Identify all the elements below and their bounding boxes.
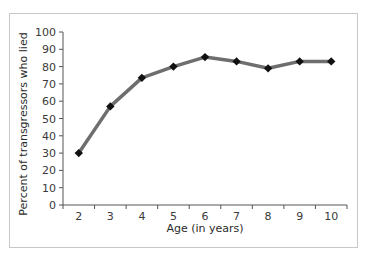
x-tick-label: 8 xyxy=(265,210,272,223)
diamond-marker xyxy=(169,62,177,70)
series-line xyxy=(79,57,331,153)
x-axis-title: Age (in years) xyxy=(166,222,243,235)
data-series xyxy=(75,53,336,157)
y-tick-label: 20 xyxy=(42,164,56,177)
line-chart: 0102030405060708090100 2345678910 Age (i… xyxy=(0,0,370,261)
y-tick-label: 50 xyxy=(42,113,56,126)
x-tick-label: 4 xyxy=(138,210,145,223)
y-tick-label: 90 xyxy=(42,43,56,56)
x-tick-label: 9 xyxy=(296,210,303,223)
y-tick-label: 40 xyxy=(42,130,56,143)
y-tick-label: 30 xyxy=(42,147,56,160)
y-axis-title: Percent of transgressors who lied xyxy=(17,32,30,215)
diamond-marker xyxy=(201,53,209,61)
y-tick-label: 100 xyxy=(35,26,56,39)
diamond-marker xyxy=(295,57,303,65)
diamond-marker xyxy=(232,57,240,65)
y-tick-label: 80 xyxy=(42,61,56,74)
y-tick-label: 70 xyxy=(42,78,56,91)
x-axis: 2345678910 xyxy=(63,205,347,223)
diamond-marker xyxy=(327,57,335,65)
y-tick-label: 0 xyxy=(49,199,56,212)
y-axis: 0102030405060708090100 xyxy=(35,26,63,212)
y-tick-label: 10 xyxy=(42,182,56,195)
y-tick-label: 60 xyxy=(42,95,56,108)
x-tick-label: 3 xyxy=(107,210,114,223)
x-tick-label: 10 xyxy=(324,210,338,223)
x-tick-label: 2 xyxy=(75,210,82,223)
diamond-marker xyxy=(264,64,272,72)
